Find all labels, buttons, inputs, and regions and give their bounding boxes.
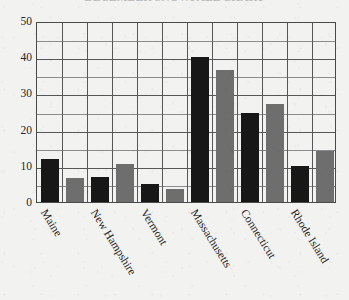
x-axis-label-maine: Maine xyxy=(39,207,65,238)
plot-area xyxy=(36,22,336,203)
x-axis-label-new-hampshire: New Hampshire xyxy=(89,207,139,277)
bar-rhode-island-series-1 xyxy=(291,166,309,202)
bar-maine-series-2 xyxy=(66,178,84,202)
x-axis-category-labels: MaineNew HampshireVermontMassachusettsCo… xyxy=(0,203,349,300)
x-axis-label-rhode-island: Rhode Island xyxy=(289,207,332,265)
y-axis-tick-30: 30 xyxy=(0,89,32,101)
y-axis-tick-labels: 01020304050 xyxy=(0,22,32,203)
bar-massachusetts-series-2 xyxy=(216,70,234,202)
y-axis-tick-40: 40 xyxy=(0,52,32,64)
bar-new-hampshire-series-1 xyxy=(91,177,109,202)
bar-maine-series-1 xyxy=(41,159,59,202)
bar-vermont-series-1 xyxy=(141,184,159,202)
y-axis-tick-50: 50 xyxy=(0,16,32,28)
y-axis-tick-20: 20 xyxy=(0,125,32,137)
chart-title: DECEMBER SNOWFALL CHART xyxy=(0,0,349,3)
x-axis-label-vermont: Vermont xyxy=(139,207,170,247)
bar-connecticut-series-1 xyxy=(241,113,259,202)
bar-rhode-island-series-2 xyxy=(316,151,334,202)
bar-massachusetts-series-1 xyxy=(191,57,209,202)
x-axis-label-connecticut: Connecticut xyxy=(239,207,279,260)
bar-new-hampshire-series-2 xyxy=(116,164,134,202)
x-axis-label-massachusetts: Massachusetts xyxy=(189,207,234,270)
bar-connecticut-series-2 xyxy=(266,104,284,202)
y-axis-tick-10: 10 xyxy=(0,161,32,173)
bar-series-group xyxy=(37,23,335,202)
bar-vermont-series-2 xyxy=(166,189,184,202)
